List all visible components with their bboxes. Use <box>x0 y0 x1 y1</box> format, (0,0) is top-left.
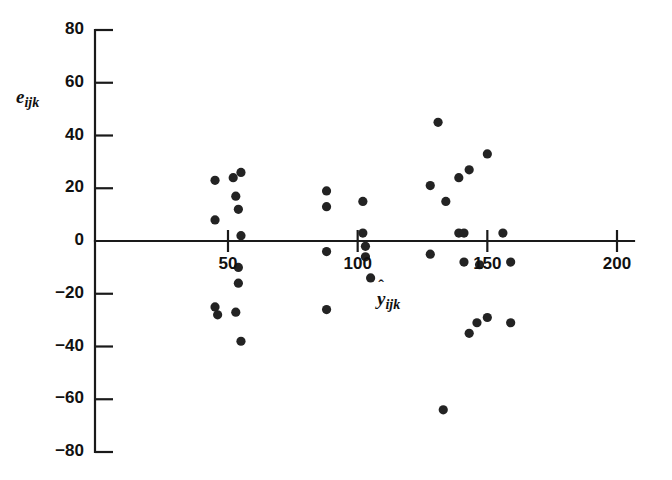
data-point <box>498 228 507 237</box>
data-point <box>213 310 222 319</box>
data-point <box>210 302 219 311</box>
data-point <box>210 176 219 185</box>
y-tick-label-8: −80 <box>18 441 84 461</box>
data-point <box>236 231 245 240</box>
data-point <box>465 165 474 174</box>
data-point <box>231 192 240 201</box>
data-point <box>361 242 370 251</box>
data-point <box>506 318 515 327</box>
data-point <box>231 308 240 317</box>
scatter-plot-figure: 806040200−20−40−60−80 50100150200 eijk ˆ… <box>0 0 672 480</box>
data-point <box>322 305 331 314</box>
y-tick-label-2: 40 <box>18 125 84 145</box>
circumflex-icon: ˆ <box>378 277 384 294</box>
plot-canvas <box>0 0 672 480</box>
data-point <box>322 202 331 211</box>
y-tick-label-4: 0 <box>18 230 84 250</box>
y-tick-label-5: −20 <box>18 283 84 303</box>
x-tick-label-1: 100 <box>328 254 388 274</box>
x-tick-label-3: 200 <box>587 254 647 274</box>
data-point <box>483 149 492 158</box>
data-point <box>210 215 219 224</box>
data-point <box>236 168 245 177</box>
y-tick-label-0: 80 <box>18 19 84 39</box>
y-axis-title: eijk <box>16 86 39 111</box>
data-point <box>472 318 481 327</box>
y-tick-label-6: −40 <box>18 336 84 356</box>
data-point <box>234 279 243 288</box>
data-point <box>426 250 435 259</box>
data-point <box>236 337 245 346</box>
x-tick-label-2: 150 <box>457 254 517 274</box>
axes-group <box>95 30 634 452</box>
data-point <box>322 186 331 195</box>
data-point <box>426 181 435 190</box>
data-point <box>433 118 442 127</box>
data-point <box>483 313 492 322</box>
y-axis-title-subscript: ijk <box>24 95 39 110</box>
data-point <box>234 205 243 214</box>
data-point <box>454 173 463 182</box>
data-point <box>439 405 448 414</box>
data-point <box>366 273 375 282</box>
data-point <box>441 197 450 206</box>
x-axis-title-subscript: ijk <box>385 297 400 312</box>
y-tick-label-7: −60 <box>18 388 84 408</box>
x-axis-title-hatted-base: ˆy <box>377 288 385 310</box>
caption-strip <box>0 466 672 480</box>
data-point <box>229 173 238 182</box>
data-point <box>358 228 367 237</box>
data-point <box>459 228 468 237</box>
data-point <box>465 329 474 338</box>
x-tick-label-0: 50 <box>198 254 258 274</box>
x-axis-title: ˆyijk <box>377 288 400 313</box>
y-tick-label-3: 20 <box>18 177 84 197</box>
data-point <box>358 197 367 206</box>
